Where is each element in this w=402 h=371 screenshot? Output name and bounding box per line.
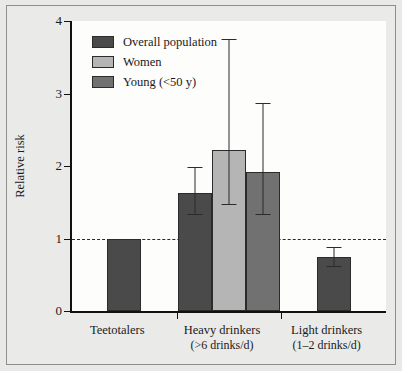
y-tick-label-1: 1: [42, 232, 62, 245]
error-cap-lower: [326, 266, 341, 267]
y-tick-4: [64, 21, 72, 22]
y-tick-label-4: 4: [42, 14, 62, 27]
y-tick-2: [64, 166, 72, 167]
x-label-line2: (1–2 drinks/d): [214, 338, 402, 353]
y-tick-label-2: 2: [42, 159, 62, 172]
legend-item-2: Young (<50 y): [92, 75, 217, 89]
figure-container: Relative risk 01234 Overall populationWo…: [0, 0, 402, 371]
plot-area: Relative risk 01234 Overall populationWo…: [70, 21, 386, 313]
legend-label-2: Young (<50 y): [123, 76, 196, 89]
y-axis-title: Relative risk: [13, 134, 28, 198]
error-bar-overall-population-light-drinkers: [317, 247, 351, 267]
error-bar-women-heavy-drinkers: [212, 39, 246, 205]
x-tick-1: [177, 311, 178, 319]
y-tick-label-3: 3: [42, 87, 62, 100]
error-stem: [333, 247, 334, 267]
legend-label-1: Women: [123, 56, 162, 69]
y-tick-label-0: 0: [42, 304, 62, 317]
error-stem: [263, 103, 264, 215]
error-cap-lower: [188, 214, 203, 215]
error-bar-young-50-y-heavy-drinkers: [246, 103, 280, 215]
y-tick-3: [64, 94, 72, 95]
error-bar-overall-population-heavy-drinkers: [178, 167, 212, 216]
x-tick-2: [281, 311, 282, 319]
figure-frame: Relative risk 01234 Overall populationWo…: [6, 5, 396, 365]
bar-overall-population-teetotalers: [107, 239, 141, 312]
error-stem: [229, 39, 230, 205]
legend-swatch-icon-0: [92, 36, 114, 48]
error-cap-lower: [222, 204, 237, 205]
legend-item-1: Women: [92, 55, 217, 69]
legend-item-0: Overall population: [92, 35, 217, 49]
legend: Overall populationWomenYoung (<50 y): [92, 35, 217, 95]
error-cap-lower: [256, 214, 271, 215]
legend-label-0: Overall population: [123, 36, 217, 49]
y-tick-1: [64, 239, 72, 240]
y-tick-0: [64, 311, 72, 312]
legend-swatch-icon-1: [92, 56, 114, 68]
legend-swatch-icon-2: [92, 76, 114, 88]
plot-inner: Relative risk 01234 Overall populationWo…: [72, 21, 386, 311]
x-label-light-drinkers: Light drinkers(1–2 drinks/d): [214, 323, 402, 353]
x-label-line1: Light drinkers: [291, 323, 362, 337]
error-stem: [195, 167, 196, 216]
